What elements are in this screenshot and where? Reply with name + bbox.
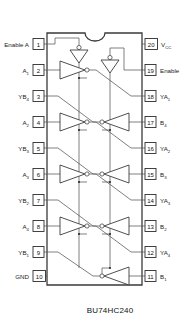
pin-20[interactable]: 20 VCC [145, 39, 171, 50]
pin-6[interactable]: 6 A3 [22, 169, 44, 180]
pin-number: 16 [147, 146, 154, 152]
pin-number: 12 [147, 250, 154, 256]
pin-label: YA1 [160, 93, 171, 102]
pin-label: Enable A [4, 41, 30, 48]
pin-label: A1 [22, 67, 29, 76]
pin-label: B2 [160, 223, 167, 232]
pin-number: 17 [147, 120, 154, 126]
part-number-caption: BU74HC240 [87, 306, 134, 315]
left-pin-leads [40, 44, 47, 276]
pin-10[interactable]: 10 GND [15, 271, 45, 282]
right-buffer-1 [100, 267, 129, 285]
pin-17[interactable]: 17 B4 [145, 117, 167, 128]
enable-a-inverter [70, 45, 88, 63]
pin-label: YB1 [18, 249, 29, 258]
pin-label: YB2 [18, 197, 29, 206]
left-pins: 1 Enable A 2 A1 3 YB4 4 A2 5 YB3 [4, 39, 45, 282]
pin-9[interactable]: 9 YB1 [18, 247, 44, 258]
pin-16[interactable]: 16 YA2 [145, 143, 171, 154]
pin-label: A2 [22, 119, 29, 128]
pin-5[interactable]: 5 YB3 [18, 143, 44, 154]
pin-1[interactable]: 1 Enable A [4, 39, 44, 50]
pin-label: B1 [160, 273, 167, 282]
pin-12[interactable]: 12 YA4 [145, 247, 171, 258]
pin-label: YA2 [160, 145, 171, 154]
schematic-page: 1 Enable A 2 A1 3 YB4 4 A2 5 YB3 [0, 0, 189, 325]
pin-number: 19 [147, 68, 154, 74]
ic-pinout-diagram: 1 Enable A 2 A1 3 YB4 4 A2 5 YB3 [0, 0, 189, 325]
right-pin-leads [142, 44, 149, 276]
pin-label: YA4 [160, 249, 171, 258]
pin-label: GND [15, 273, 29, 280]
pin-15[interactable]: 15 B3 [145, 169, 167, 180]
pin-number: 14 [147, 198, 154, 204]
pin-label: A3 [22, 171, 29, 180]
pin-7[interactable]: 7 YB2 [18, 195, 44, 206]
pin-number: 10 [36, 274, 43, 280]
pin-14[interactable]: 14 YA3 [145, 195, 171, 206]
pin-number: 15 [147, 172, 154, 178]
right-pins: 20 VCC 19 Enable 18 YA1 17 B4 16 YA2 [145, 39, 180, 282]
pin-label: YB3 [18, 145, 29, 154]
pin-18[interactable]: 18 YA1 [145, 91, 171, 102]
enable-b-inverter [101, 55, 119, 73]
pin-label: B4 [160, 119, 167, 128]
left-buffer-1 [60, 61, 89, 79]
pin-8[interactable]: 8 A4 [22, 221, 44, 232]
pin-19[interactable]: 19 Enable [145, 65, 180, 76]
pin-4[interactable]: 4 A2 [22, 117, 44, 128]
pin-2[interactable]: 2 A1 [22, 65, 44, 76]
pin-label: Enable [160, 67, 180, 74]
pin-number: 11 [147, 274, 154, 280]
pin-number: 13 [147, 224, 154, 230]
pin-number: 18 [147, 94, 154, 100]
pin-label: B3 [160, 171, 167, 180]
pin-13[interactable]: 13 B2 [145, 221, 167, 232]
pin-label: YB4 [18, 93, 29, 102]
pin-number: 20 [148, 42, 155, 48]
pin-label: YA3 [160, 197, 171, 206]
pin-label: VCC [161, 41, 171, 50]
pin-11[interactable]: 11 B1 [145, 271, 167, 282]
pin-3[interactable]: 3 YB4 [18, 91, 44, 102]
pin-label: A4 [22, 223, 29, 232]
